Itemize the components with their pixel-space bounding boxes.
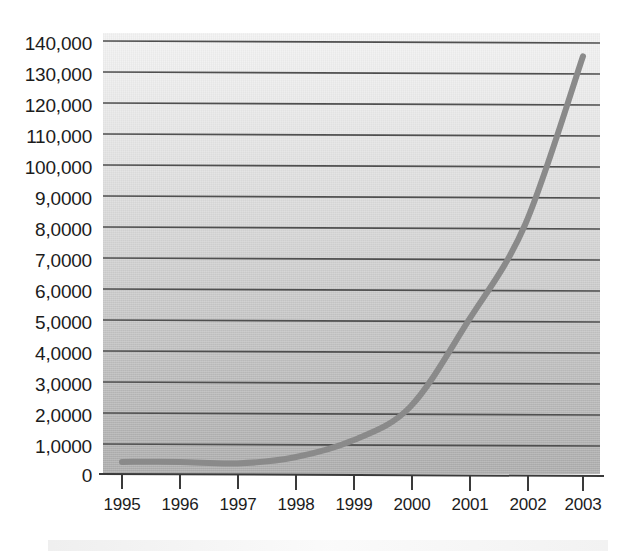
gridline-130000 — [103, 72, 600, 74]
y-tick-label: 0 — [82, 466, 92, 485]
x-axis-line — [99, 474, 604, 476]
chart-figure: 140,000 130,000 120,000 110,000 100,000 … — [0, 0, 640, 551]
gridlines — [103, 41, 600, 446]
x-tick-label: 2000 — [393, 496, 430, 513]
x-tick-label: 2001 — [451, 496, 488, 513]
y-tick-label: 140,000 — [25, 34, 92, 53]
y-axis-labels: 140,000 130,000 120,000 110,000 100,000 … — [0, 0, 92, 551]
y-tick-label: 6,0000 — [35, 282, 92, 301]
gridline-10000 — [103, 444, 600, 446]
gridline-90000 — [103, 196, 600, 198]
y-tick-label: 120,000 — [25, 96, 92, 115]
plot-canvas — [103, 33, 600, 474]
y-tick-label: 5,0000 — [35, 313, 92, 332]
gridline-70000 — [103, 258, 600, 260]
y-tick-label: 9,0000 — [35, 189, 92, 208]
x-tick-label: 2003 — [564, 496, 601, 513]
y-tick-label: 8,0000 — [35, 220, 92, 239]
gridline-110000 — [103, 134, 600, 136]
gridline-20000 — [103, 413, 600, 415]
gridline-120000 — [103, 103, 600, 105]
x-axis-labels: 1995 1996 1997 1998 1999 2000 2001 2002 … — [0, 496, 640, 526]
gridline-140000 — [103, 41, 600, 43]
gridline-50000 — [103, 320, 600, 322]
y-tick-label: 7,0000 — [35, 251, 92, 270]
gridline-30000 — [103, 382, 600, 384]
x-tick-label: 1998 — [277, 496, 314, 513]
plot-area — [103, 33, 600, 474]
x-tick-label: 1996 — [161, 496, 198, 513]
y-tick-label: 2,0000 — [35, 406, 92, 425]
y-tick-label: 100,000 — [25, 158, 92, 177]
y-tick-label: 130,000 — [25, 65, 92, 84]
y-tick-label: 1,0000 — [35, 437, 92, 456]
y-tick-label: 110,000 — [26, 127, 92, 146]
gridline-40000 — [103, 351, 600, 353]
gridline-100000 — [103, 165, 600, 167]
y-tick-label: 4,0000 — [35, 344, 92, 363]
page-scan-smudge — [48, 540, 608, 551]
x-tick-label: 1997 — [219, 496, 256, 513]
y-tick-label: 3,0000 — [35, 375, 92, 394]
x-tick-label: 2002 — [509, 496, 546, 513]
x-tick-label: 1999 — [335, 496, 372, 513]
x-tick-label: 1995 — [103, 496, 140, 513]
gridline-60000 — [103, 289, 600, 291]
